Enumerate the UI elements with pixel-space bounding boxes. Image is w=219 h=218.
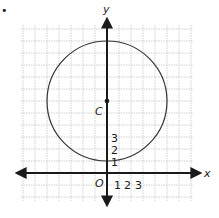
x-tick-2: 2	[124, 179, 131, 192]
problem-marker: •	[1, 4, 8, 17]
y-tick-2: 2	[111, 144, 118, 157]
y-axis-label: y	[102, 3, 110, 16]
center-label: C	[95, 105, 103, 118]
origin-label: O	[95, 177, 104, 190]
y-tick-3: 3	[111, 132, 118, 145]
x-tick-3: 3	[135, 179, 142, 192]
center-point	[105, 99, 110, 104]
y-tick-1: 1	[111, 156, 118, 169]
coordinate-plane: • y x O C 1 2 3 1 2 3	[0, 0, 219, 218]
x-axis-label: x	[203, 167, 211, 180]
x-tick-1: 1	[114, 179, 121, 192]
